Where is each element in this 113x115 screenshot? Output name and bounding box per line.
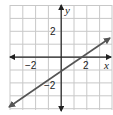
coordinate-plane: y x 2 −2 −2 2: [0, 0, 113, 115]
x-tick-label-neg2: −2: [25, 60, 37, 71]
x-axis-label: x: [103, 59, 109, 71]
y-axis-label: y: [64, 4, 70, 16]
x-tick-label-2: 2: [83, 60, 89, 71]
y-tick-label-2: 2: [50, 26, 56, 37]
y-tick-label-neg2: −2: [44, 80, 56, 91]
